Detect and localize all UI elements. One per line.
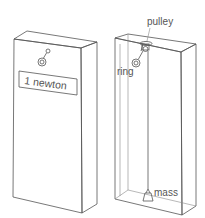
closed-box: 1 newton [13, 31, 97, 213]
ring-icon [38, 58, 46, 66]
inner-bottom-left-edge [115, 190, 128, 199]
diagram-canvas: 1 newton pulley ring [0, 0, 205, 218]
hook-icon [46, 49, 50, 53]
open-box-side-face [181, 44, 196, 215]
closed-box-side-face [81, 42, 97, 213]
closed-box-front-face [13, 39, 82, 213]
pulley-icon [140, 42, 152, 52]
pulley-leader [147, 28, 150, 41]
mass-label: mass [154, 187, 178, 198]
ring-inner [134, 61, 138, 65]
open-box-top-face [115, 34, 196, 52]
closed-box-top-face [14, 31, 97, 48]
hook-link [44, 53, 47, 58]
ring-label: ring [117, 66, 134, 77]
open-box: pulley ring mass [115, 16, 196, 215]
ring-inner [40, 60, 44, 64]
pulley-label: pulley [147, 16, 173, 27]
ring-string [139, 51, 144, 59]
